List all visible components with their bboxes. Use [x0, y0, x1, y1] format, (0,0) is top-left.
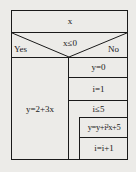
loop-body-y-statement: y=y+i²x+5 — [80, 122, 128, 132]
init-i-statement: i=1 — [69, 84, 128, 94]
loop-body-i-statement: i=i+1 — [80, 143, 128, 153]
loop-condition-label: i≤5 — [69, 104, 128, 114]
yes-label: Yes — [14, 44, 27, 54]
init-y-statement: y=0 — [69, 62, 128, 72]
condition-label: x≤0 — [50, 38, 90, 48]
input-x-label: x — [12, 16, 128, 26]
structure-chart: x x≤0 Yes No y=2+3x y=0 i=1 i≤5 y=y+i²x+… — [0, 0, 136, 172]
no-label: No — [108, 44, 119, 54]
yes-branch-statement: y=2+3x — [12, 104, 68, 114]
